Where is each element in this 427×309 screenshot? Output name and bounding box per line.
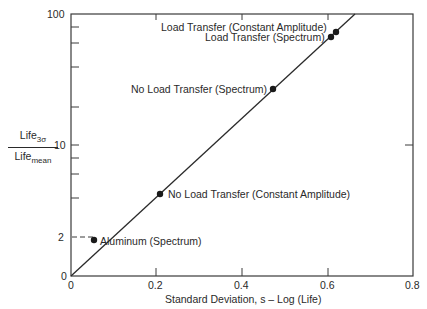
data-points — [91, 29, 339, 243]
label-aluminum-spectrum: Aluminum (Spectrum) — [100, 236, 202, 247]
label-no-load-transfer-spectrum: No Load Transfer (Spectrum) — [131, 84, 267, 95]
point-load-transfer-spectrum — [328, 34, 334, 40]
y-axis-title: Life3σ Lifemean — [8, 130, 58, 165]
point-no-load-transfer-spectrum — [270, 86, 276, 92]
y-axis-numerator: Life3σ — [8, 130, 58, 148]
label-load-transfer-constant: Load Transfer (Constant Amplitude) — [161, 22, 327, 33]
label-no-load-transfer-constant: No Load Transfer (Constant Amplitude) — [168, 189, 350, 200]
x-axis-title: Standard Deviation, s – Log (Life) — [165, 294, 321, 305]
label-load-transfer-spectrum: Load Transfer (Spectrum) — [205, 32, 325, 43]
y-axis-ticks — [71, 27, 413, 198]
y-axis-denominator: Lifemean — [8, 148, 58, 165]
point-no-load-transfer-constant — [157, 191, 163, 197]
y-tick-0: 0 — [61, 271, 67, 282]
x-tick-0: 0 — [68, 280, 74, 291]
y-tick-100: 100 — [47, 9, 65, 20]
chart-canvas — [0, 0, 427, 309]
point-aluminum-spectrum — [91, 237, 97, 243]
point-load-transfer-constant — [333, 29, 339, 35]
x-tick-0.8: 0.8 — [405, 280, 420, 291]
x-tick-0.2: 0.2 — [148, 280, 163, 291]
x-tick-0.6: 0.6 — [320, 280, 335, 291]
x-tick-0.4: 0.4 — [234, 280, 249, 291]
y-tick-2: 2 — [58, 232, 64, 243]
